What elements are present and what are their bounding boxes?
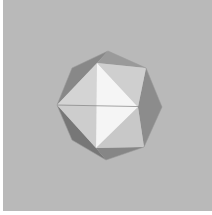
octahedron-render	[0, 0, 212, 215]
